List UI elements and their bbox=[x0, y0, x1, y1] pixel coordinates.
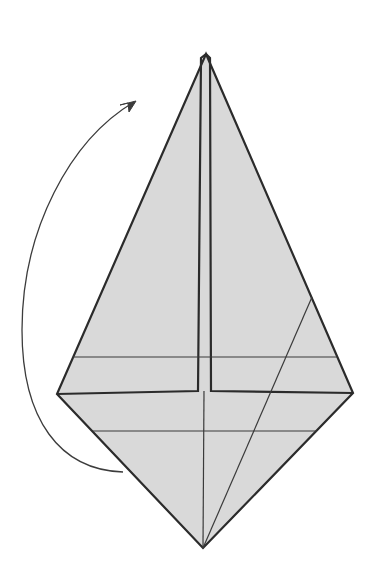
diagram-canvas bbox=[0, 0, 375, 577]
origami-diagram bbox=[0, 0, 375, 577]
